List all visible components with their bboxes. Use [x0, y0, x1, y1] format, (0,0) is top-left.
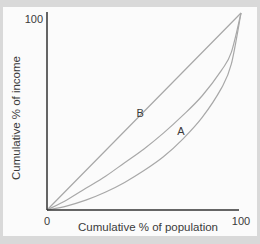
series-line-0 — [47, 13, 241, 210]
y-tick-label: 100 — [25, 13, 43, 25]
y-axis-label: Cumulative % of income — [10, 56, 22, 180]
x-tick-label: 0 — [44, 215, 50, 227]
x-axis-label: Cumulative % of population — [78, 221, 218, 233]
annotation-label: B — [136, 107, 143, 119]
x-tick-label: 100 — [232, 215, 250, 227]
lorenz-chart: 100 0 100 Cumulative % of population Cum… — [0, 0, 260, 244]
annotation-label: A — [177, 125, 185, 137]
